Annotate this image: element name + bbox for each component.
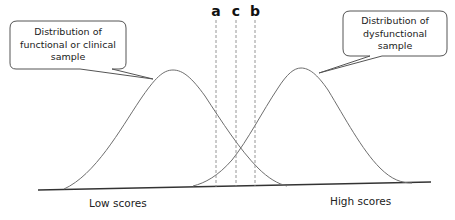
- marker-b-label: b: [250, 3, 260, 19]
- callout-line: Distribution of: [345, 15, 445, 28]
- marker-a-label: a: [211, 3, 220, 19]
- callout-line: functional or clinical: [12, 39, 124, 52]
- callout-line: sample: [12, 51, 124, 64]
- low-scores-label: Low scores: [89, 197, 147, 209]
- score-axis-baseline: [38, 182, 431, 190]
- marker-c-label: c: [232, 3, 240, 19]
- functional-distribution-curve: [64, 70, 287, 189]
- callout-line: sample: [345, 40, 445, 53]
- distribution-diagram: Distribution of functional or clinical s…: [0, 0, 455, 220]
- functional-callout-text: Distribution of functional or clinical s…: [12, 26, 124, 64]
- high-scores-label: High scores: [330, 195, 391, 207]
- callout-line: Distribution of: [12, 26, 124, 39]
- dysfunctional-callout-text: Distribution of dysfunctional sample: [345, 15, 445, 53]
- callout-line: dysfunctional: [345, 28, 445, 41]
